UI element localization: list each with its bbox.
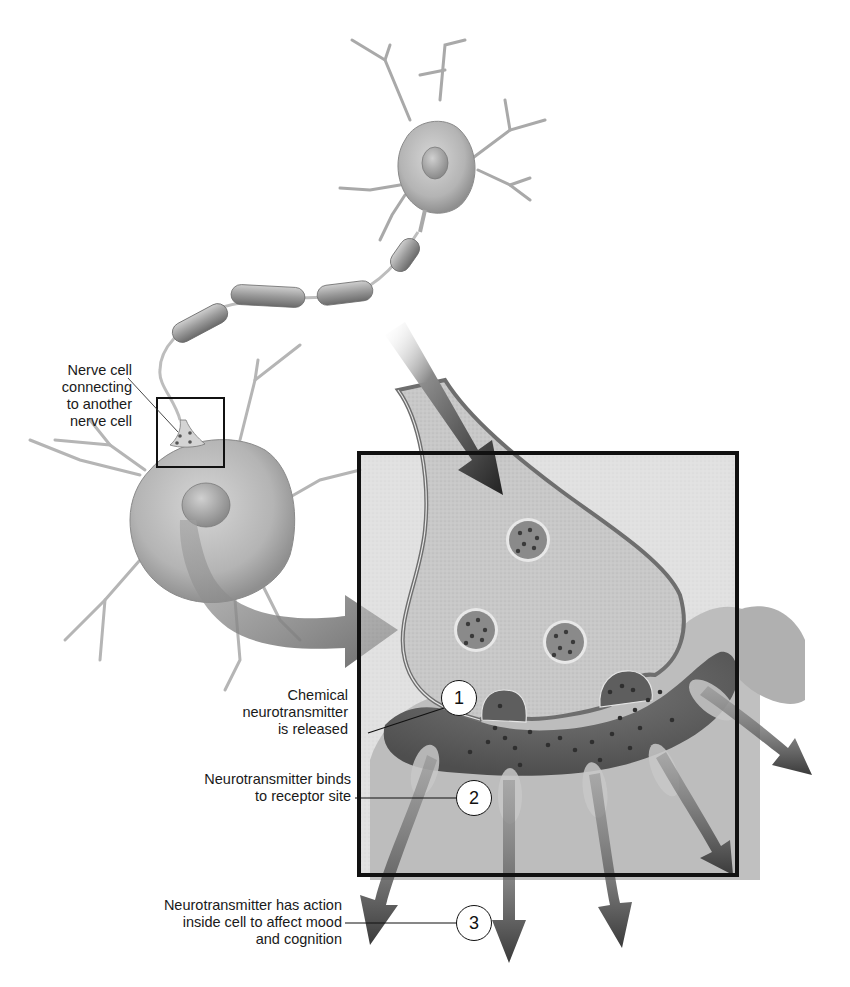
step-1-label-line: is released bbox=[200, 721, 348, 738]
step-2-callout: 2 bbox=[456, 780, 492, 816]
vesicle bbox=[454, 608, 498, 652]
step-2-label: Neurotransmitter binds to receptor site bbox=[160, 771, 351, 805]
synapse-detail-panel bbox=[359, 322, 812, 963]
inset-label-leader bbox=[128, 378, 178, 432]
synapse-illustration bbox=[0, 0, 850, 987]
vesicle bbox=[506, 518, 550, 562]
step-1-label-line: neurotransmitter bbox=[200, 704, 348, 721]
top-neuron bbox=[340, 40, 545, 240]
step-3-label-line: and cognition bbox=[120, 931, 342, 948]
top-neuron-nucleus bbox=[422, 147, 448, 179]
step-1-label-line: Chemical bbox=[200, 687, 348, 704]
step-1-callout: 1 bbox=[441, 680, 477, 716]
step-2-label-line: to receptor site bbox=[160, 788, 351, 805]
step-3-callout: 3 bbox=[456, 905, 492, 941]
inset-label-line: Nerve cell bbox=[40, 362, 132, 379]
inset-label-line: to another bbox=[40, 396, 132, 413]
inset-label-line: nerve cell bbox=[40, 413, 132, 430]
step-2-label-line: Neurotransmitter binds bbox=[160, 771, 351, 788]
myelinated-axon bbox=[160, 232, 424, 420]
step-3-label-line: inside cell to affect mood bbox=[120, 914, 342, 931]
step-3-label-line: Neurotransmitter has action bbox=[120, 897, 342, 914]
inset-label: Nerve cell connecting to another nerve c… bbox=[40, 362, 132, 430]
step-1-label: Chemical neurotransmitter is released bbox=[200, 687, 348, 738]
vesicle bbox=[543, 620, 587, 664]
step-3-label: Neurotransmitter has action inside cell … bbox=[120, 897, 342, 948]
inset-label-line: connecting bbox=[40, 379, 132, 396]
